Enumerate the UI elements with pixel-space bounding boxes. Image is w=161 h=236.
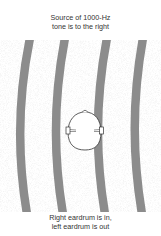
bottom-caption-line1: Right eardrum is in, xyxy=(0,213,161,222)
right-ear-icon xyxy=(100,127,104,134)
head-icon xyxy=(68,112,101,150)
bottom-caption: Right eardrum is in, left eardrum is out xyxy=(0,213,161,231)
bottom-caption-line2: left eardrum is out xyxy=(0,222,161,231)
left-ear-icon xyxy=(66,127,70,134)
sound-wave-diagram xyxy=(0,0,161,236)
